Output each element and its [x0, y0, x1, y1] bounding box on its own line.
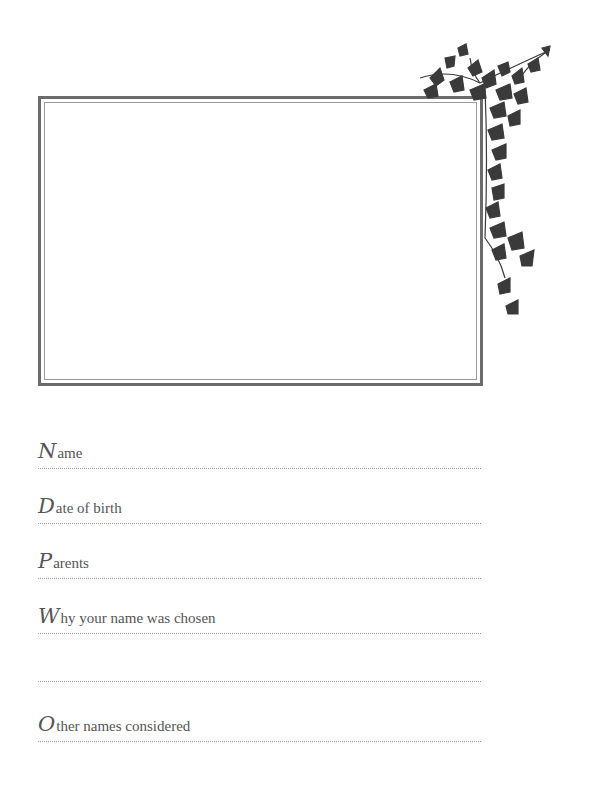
- field-label-initial: P: [38, 549, 52, 573]
- ivy-decoration-icon: [410, 38, 560, 318]
- dotted-write-line[interactable]: [38, 578, 481, 579]
- field-label: Why your name was chosen: [38, 604, 216, 628]
- field-label-text: arents: [53, 555, 89, 571]
- field-label-initial: W: [38, 604, 60, 628]
- dotted-write-line[interactable]: [38, 468, 481, 469]
- field-label-text: hy your name was chosen: [61, 610, 216, 626]
- form-field-5[interactable]: Other names considered: [38, 702, 481, 742]
- field-label-text: ate of birth: [56, 500, 122, 516]
- field-label-initial: O: [38, 712, 55, 736]
- field-label: [38, 652, 39, 676]
- form-field-4[interactable]: [38, 642, 481, 682]
- field-label-text: ame: [57, 445, 82, 461]
- field-label: Other names considered: [38, 712, 190, 736]
- field-label: Parents: [38, 549, 89, 573]
- field-label-initial: D: [38, 494, 55, 518]
- dotted-write-line[interactable]: [38, 681, 481, 682]
- form-field-1[interactable]: Date of birth: [38, 484, 481, 524]
- form-field-3[interactable]: Why your name was chosen: [38, 594, 481, 634]
- dotted-write-line[interactable]: [38, 523, 481, 524]
- form-field-0[interactable]: Name: [38, 429, 481, 469]
- dotted-write-line[interactable]: [38, 741, 481, 742]
- dotted-write-line[interactable]: [38, 633, 481, 634]
- field-label: Name: [38, 439, 82, 463]
- field-label-initial: N: [38, 439, 56, 463]
- form-field-2[interactable]: Parents: [38, 539, 481, 579]
- field-label: Date of birth: [38, 494, 122, 518]
- field-label-text: ther names considered: [56, 718, 190, 734]
